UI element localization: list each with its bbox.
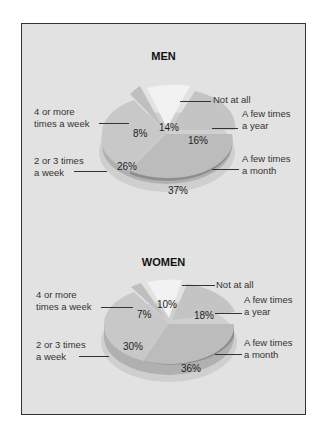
chart-frame: MEN 14% 8% 16% 26% 37% Not at all 4 or m… bbox=[21, 23, 306, 415]
women-pct-4: 7% bbox=[137, 309, 151, 320]
women-pct-month: 36% bbox=[181, 363, 201, 374]
women-label-4: 4 or moretimes a week bbox=[36, 289, 91, 313]
women-label-not: Not at all bbox=[216, 279, 254, 291]
women-pct-year: 18% bbox=[194, 310, 214, 321]
women-label-year: A few timesa year bbox=[244, 294, 293, 318]
women-pct-not: 10% bbox=[157, 299, 177, 310]
women-label-23: 2 or 3 timesa week bbox=[36, 339, 86, 363]
women-pct-23: 30% bbox=[123, 341, 143, 352]
women-label-month: A few timesa month bbox=[244, 337, 293, 361]
